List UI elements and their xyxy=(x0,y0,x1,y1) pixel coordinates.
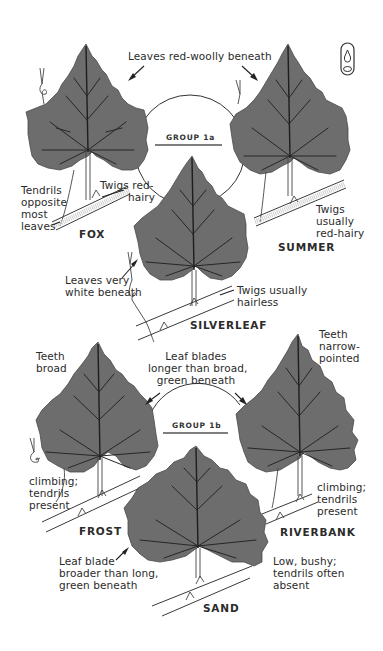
note-line: Twigs usually xyxy=(237,284,307,296)
note-line: climbing; xyxy=(317,481,366,493)
note-line: broad xyxy=(36,362,67,374)
summer-twig-note: Twigs usually red-hairy xyxy=(316,203,364,239)
note-line: tendrils often xyxy=(273,567,344,579)
note-line: Leaves very xyxy=(65,274,142,286)
silverleaf-leaf-note: Leaves very white beneath xyxy=(65,274,142,298)
note-line: hairless xyxy=(237,296,307,308)
summer-leaf xyxy=(230,44,350,222)
species-name-frost: FROST xyxy=(79,525,122,537)
note-line: opposite xyxy=(21,196,67,208)
group-1b-shared-note: Leaf blades longer than broad, green ben… xyxy=(148,350,244,386)
note-line: hairy xyxy=(100,191,155,203)
species-name-silverleaf: SILVERLEAF xyxy=(190,319,267,331)
note-line: tendrils xyxy=(29,487,78,499)
sand-blade-note: Leaf blade broader than long, green bene… xyxy=(59,555,158,591)
fox-tendril-note: Tendrils opposite most leaves xyxy=(21,184,67,232)
note-line: white beneath xyxy=(65,286,142,298)
note-line: Low, bushy; xyxy=(273,555,344,567)
species-name-sand: SAND xyxy=(203,602,239,614)
sand-habit-note: Low, bushy; tendrils often absent xyxy=(273,555,344,591)
note-line: green beneath xyxy=(148,374,244,386)
note-line: pointed xyxy=(319,352,360,364)
note-line: climbing; xyxy=(29,475,78,487)
group-1a-label: GROUP 1a xyxy=(166,133,215,142)
frost-teeth-note: Teeth broad xyxy=(36,350,67,374)
note-line: Teeth xyxy=(319,328,360,340)
riverbank-habit-note: climbing; tendrils present xyxy=(317,481,366,517)
note-line: Tendrils xyxy=(21,184,67,196)
habitat-glyph-icon xyxy=(341,43,354,75)
note-line: absent xyxy=(273,579,344,591)
note-line: Twigs red- xyxy=(100,179,155,191)
note-line: Leaf blade xyxy=(59,555,158,567)
note-line: present xyxy=(317,505,366,517)
fox-twig-note: Twigs red- hairy xyxy=(100,179,155,203)
note-line: Twigs xyxy=(316,203,364,215)
group-1a-shared-note: Leaves red-woolly beneath xyxy=(128,50,272,62)
note-line: present xyxy=(29,499,78,511)
riverbank-twig xyxy=(262,494,318,524)
note-line: Teeth xyxy=(36,350,67,362)
note-line: tendrils xyxy=(317,493,366,505)
note-line: Leaf blades xyxy=(148,350,244,362)
group-1b-label: GROUP 1b xyxy=(172,421,222,430)
species-name-riverbank: RIVERBANK xyxy=(280,526,356,538)
silverleaf-twig xyxy=(136,286,234,340)
species-name-fox: FOX xyxy=(79,228,105,240)
group-1b-arc xyxy=(150,383,240,415)
species-name-summer: SUMMER xyxy=(278,241,335,253)
note-line: leaves xyxy=(21,220,67,232)
riverbank-teeth-note: Teeth narrow- pointed xyxy=(319,328,360,364)
silverleaf-twig-note: Twigs usually hairless xyxy=(237,284,307,308)
note-line: usually xyxy=(316,215,364,227)
note-line: broader than long, xyxy=(59,567,158,579)
note-line: red-hairy xyxy=(316,227,364,239)
note-line: most xyxy=(21,208,67,220)
frost-habit-note: climbing; tendrils present xyxy=(29,475,78,511)
note-line: green beneath xyxy=(59,579,158,591)
note-line: narrow- xyxy=(319,340,360,352)
note-line: longer than broad, xyxy=(148,362,244,374)
